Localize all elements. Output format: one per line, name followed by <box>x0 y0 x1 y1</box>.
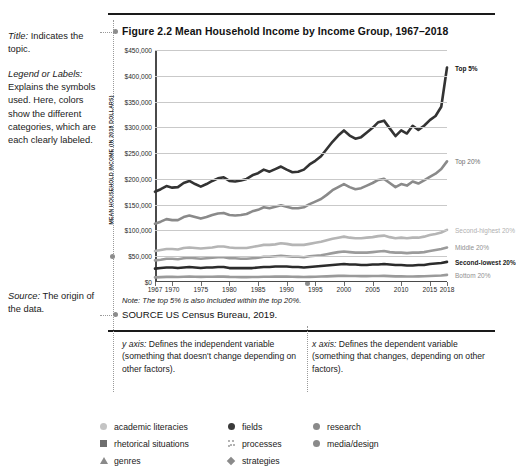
y-tick-label: $150,000 <box>106 201 152 208</box>
y-tick-label: $200,000 <box>106 175 152 182</box>
series-label: Top 5% <box>455 64 478 71</box>
series-label: Bottom 20% <box>455 271 490 278</box>
circle-dark-icon <box>228 423 242 430</box>
triangle-gray-icon <box>100 457 114 464</box>
x-tick-label: 2018 <box>440 286 455 293</box>
leader-title <box>100 32 114 33</box>
legend-swatch <box>100 457 108 464</box>
legend-swatch <box>228 423 235 430</box>
legend-item: academic literacies <box>100 418 189 435</box>
legend-item-label: rhetorical situations <box>114 439 189 449</box>
circle-light-icon <box>100 423 114 430</box>
x-axis-definition: x axis: Defines the dependent variable (… <box>312 338 492 375</box>
x-tick-label: 2015 <box>422 286 437 293</box>
x-axis-definition-lead: x axis: <box>312 339 336 349</box>
series-label: Middle 20% <box>455 244 489 251</box>
middle-rule <box>108 330 495 332</box>
legend-item-label: media/design <box>327 439 379 449</box>
legend-column-1: academic literaciesrhetorical situations… <box>100 418 189 468</box>
annotation-source: Source: The origin of the data. <box>8 290 100 316</box>
annotation-title: Title: Indicates the topic. <box>8 30 100 56</box>
figure-title: Figure 2.2 Mean Household Income by Inco… <box>122 26 448 37</box>
circle-medium2-icon <box>313 440 327 447</box>
legend-swatch <box>227 456 235 464</box>
circle-medium-icon <box>313 423 327 430</box>
leader-dot-title <box>113 29 118 34</box>
y-tick-label: $0 <box>106 279 152 286</box>
legend-item-label: academic literacies <box>114 422 188 432</box>
legend-item-label: processes <box>242 439 282 449</box>
line-chart: MEAN HOUSEHOLD INCOME (IN 2018 DOLLARS) … <box>108 44 495 288</box>
legend-swatch <box>100 440 107 447</box>
legend-item-label: fields <box>242 422 262 432</box>
x-tick-label: 1970 <box>165 286 180 293</box>
gridline <box>155 102 447 103</box>
top-rule <box>108 13 495 15</box>
leader-dot-source <box>113 312 118 317</box>
x-tick-label: 1985 <box>251 286 266 293</box>
series-line <box>155 275 447 277</box>
legend-swatch <box>228 440 236 447</box>
legend-item-label: strategies <box>242 456 280 466</box>
gridline <box>155 127 447 128</box>
y-tick-label: $50,000 <box>106 253 152 260</box>
y-tick-label: $350,000 <box>106 98 152 105</box>
x-tick-label: 2005 <box>365 286 380 293</box>
y-axis-definition-lead: y axis: <box>122 339 146 349</box>
legend-item: research <box>313 418 379 435</box>
y-tick-label: $400,000 <box>106 72 152 79</box>
series-label: Second-lowest 20% <box>455 258 516 265</box>
legend-item-label: genres <box>114 456 141 466</box>
gridline <box>155 76 447 77</box>
guide-right-vertical <box>307 326 308 392</box>
gridline <box>155 50 447 51</box>
chart-series-svg <box>155 50 447 282</box>
gridline <box>155 205 447 206</box>
series-line <box>155 68 447 192</box>
gridline <box>155 179 447 180</box>
y-axis-definition: y axis: Defines the independent variable… <box>122 338 297 375</box>
series-line <box>155 230 447 251</box>
gridline <box>155 153 447 154</box>
legend-swatch <box>313 440 320 447</box>
x-axis-definition-body: Defines the dependent variable (somethin… <box>312 339 485 374</box>
annotation-legend-body: Explains the symbols used. Here, colors … <box>8 82 96 145</box>
series-label: Top 20% <box>455 158 480 165</box>
series-label: Second-highest 20% <box>455 226 515 233</box>
series-line <box>155 262 447 269</box>
y-tick-label: $250,000 <box>106 150 152 157</box>
legend-item: strategies <box>228 452 282 468</box>
chart-plot-area: $0$50,000$100,000$150,000$200,000$250,00… <box>155 50 447 282</box>
legend-column-2: fieldsprocessesstrategies <box>228 418 282 468</box>
square-gray-icon <box>100 440 114 447</box>
x-tick-label: 1975 <box>193 286 208 293</box>
leader-source <box>100 315 114 316</box>
annotation-legend-lead: Legend or Labels: <box>8 69 82 79</box>
annotation-legend: Legend or Labels: Explains the symbols u… <box>8 68 100 147</box>
y-axis-definition-body: Defines the independent variable (someth… <box>122 339 296 374</box>
y-tick-label: $450,000 <box>106 47 152 54</box>
legend-item: rhetorical situations <box>100 435 189 452</box>
legend-swatch <box>100 423 107 430</box>
gridline <box>155 256 447 257</box>
x-tick-label: 2000 <box>337 286 352 293</box>
gridline <box>155 230 447 231</box>
legend-item: media/design <box>313 435 379 452</box>
annotation-title-lead: Title: <box>8 31 28 41</box>
legend-item-label: research <box>327 422 361 432</box>
x-tick-label: 1990 <box>279 286 294 293</box>
legend-item: genres <box>100 452 189 468</box>
x-tick-label: 1967 <box>148 286 163 293</box>
figure-note: Note: The top 5% is also included within… <box>122 296 301 305</box>
x-tick-label: 2010 <box>394 286 409 293</box>
y-tick-label: $300,000 <box>106 124 152 131</box>
legend-item: fields <box>228 418 282 435</box>
x-tick-label: 1980 <box>222 286 237 293</box>
legend-swatch <box>313 423 320 430</box>
legend-column-3: researchmedia/design <box>313 418 379 452</box>
x-tick-label: 1995 <box>308 286 323 293</box>
figure-source: SOURCE US Census Bureau, 2019. <box>122 309 277 320</box>
dots-cluster-icon <box>228 440 242 447</box>
annotation-source-lead: Source: <box>8 291 40 301</box>
